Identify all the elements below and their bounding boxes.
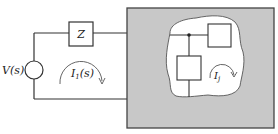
- outer-current-label: I1(s): [70, 67, 94, 81]
- voltage-source-icon: [25, 61, 43, 79]
- source-label: V(s): [2, 64, 24, 77]
- inner-element-top: [208, 24, 231, 47]
- impedance-label: Z: [76, 28, 85, 41]
- inner-element-left: [177, 56, 201, 80]
- circuit-diagram: V(s) Z I1(s) Ij: [0, 0, 278, 134]
- junction-node: [187, 33, 191, 37]
